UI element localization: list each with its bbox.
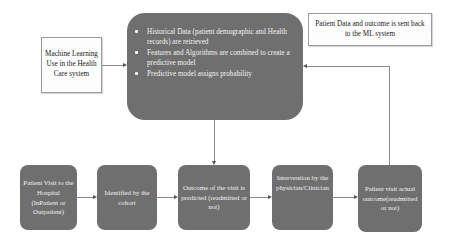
arrowhead-left-icon	[303, 64, 307, 68]
flow-step-label: Patient visit actual outcome(readmitted …	[361, 184, 419, 214]
ml-use-box: Machine Learning Use in the Health Care …	[41, 37, 102, 93]
bullet-text: Features and Algorithms are combined to …	[147, 49, 290, 67]
flow-step-cohort: Identified by the cohort	[97, 165, 157, 230]
connector-step1-to-step2	[77, 197, 93, 198]
ml-use-label: Machine Learning Use in the Health Care …	[42, 50, 101, 79]
flow-step-outcome-predicted: Outcome of the visit is predicted (readm…	[178, 165, 250, 230]
connector-central-to-step3	[214, 120, 215, 161]
bullet-icon	[135, 72, 138, 75]
flow-step-patient-visit: Patient Visit to the Hospital (InPatient…	[20, 165, 77, 230]
connector-feedback-horizontal	[307, 66, 390, 67]
flow-step-label: Intervention by the physician/Clinician	[275, 173, 330, 193]
flow-step-label: Outcome of the visit is predicted (readm…	[181, 183, 247, 213]
flow-step-label: Identified by the cohort	[100, 188, 154, 208]
bullet-item: Predictive model assigns probability	[135, 69, 295, 79]
bullet-icon	[135, 51, 138, 54]
central-process-box: Historical Data (patient demographic and…	[127, 13, 303, 120]
bullet-item: Historical Data (patient demographic and…	[135, 27, 295, 48]
feedback-label: Patient Data and outcome is sent back to…	[313, 20, 427, 39]
connector-feedback-vertical	[389, 66, 390, 165]
connector-step4-to-step5	[333, 197, 354, 198]
bullet-text: Historical Data (patient demographic and…	[147, 28, 287, 46]
connector-step3-to-step4	[250, 197, 268, 198]
connector-ml-to-central	[102, 65, 123, 66]
bullet-item: Features and Algorithms are combined to …	[135, 48, 295, 69]
feedback-box: Patient Data and outcome is sent back to…	[308, 13, 432, 46]
bullet-icon	[135, 30, 138, 33]
connector-step2-to-step3	[157, 197, 174, 198]
flow-step-actual-outcome: Patient visit actual outcome(readmitted …	[358, 165, 422, 232]
central-bullet-list: Historical Data (patient demographic and…	[135, 27, 295, 79]
flow-step-label: Patient Visit to the Hospital (InPatient…	[23, 178, 74, 217]
flow-step-intervention: Intervention by the physician/Clinician	[272, 165, 333, 230]
bullet-text: Predictive model assigns probability	[147, 70, 252, 78]
